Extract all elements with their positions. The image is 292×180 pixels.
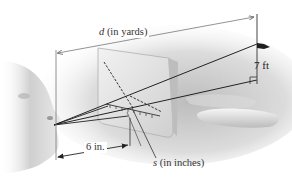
- d-unit: (in yards): [104, 26, 147, 37]
- s-unit: (in inches): [157, 157, 204, 168]
- flag-height-label: 7 ft: [254, 60, 269, 71]
- rangefinder-card: [98, 48, 178, 137]
- distance-label: d (in yards): [97, 27, 149, 38]
- scale-label: s (in inches): [153, 158, 204, 169]
- rangefinder-diagram: d (in yards) 7 ft 6 in. s (in inches): [0, 0, 292, 180]
- eye-to-card-label: 6 in.: [84, 142, 107, 153]
